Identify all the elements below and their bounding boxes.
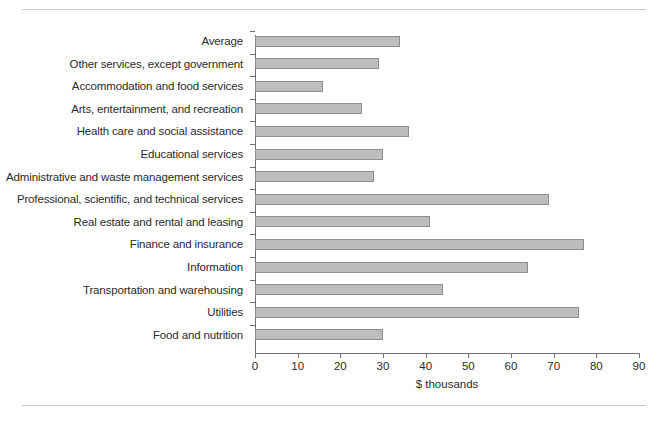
category-label: Administrative and waste management serv… xyxy=(0,166,250,189)
category-label: Educational services xyxy=(0,143,250,166)
y-axis-tick xyxy=(250,189,255,190)
bar-series xyxy=(255,30,647,353)
x-axis-line xyxy=(255,353,639,354)
x-axis-tick-label: 90 xyxy=(619,360,659,372)
top-divider-rule xyxy=(22,9,646,10)
category-label: Transportation and warehousing xyxy=(0,279,250,302)
y-axis-tick xyxy=(250,76,255,77)
x-axis-tick xyxy=(554,353,555,358)
bar xyxy=(255,149,383,160)
category-label: Professional, scientific, and technical … xyxy=(0,188,250,211)
bar-row xyxy=(255,75,639,98)
bar-row xyxy=(255,256,639,279)
y-axis-tick xyxy=(250,144,255,145)
bar-row xyxy=(255,53,639,76)
bar-row xyxy=(255,301,639,324)
x-axis-tick xyxy=(255,353,256,358)
x-axis-tick xyxy=(426,353,427,358)
y-axis-tick xyxy=(250,234,255,235)
x-axis-tick-label: 40 xyxy=(406,360,446,372)
x-axis-tick xyxy=(639,353,640,358)
y-axis-tick xyxy=(250,257,255,258)
bottom-divider-rule xyxy=(22,405,646,406)
bar xyxy=(255,262,528,273)
category-label: Information xyxy=(0,256,250,279)
y-axis-tick xyxy=(250,121,255,122)
plot-area: AverageOther services, except government… xyxy=(0,30,667,360)
category-label: Other services, except government xyxy=(0,53,250,76)
bar-row xyxy=(255,30,639,53)
x-axis-tick-label: 20 xyxy=(320,360,360,372)
category-label: Accommodation and food services xyxy=(0,75,250,98)
bar xyxy=(255,239,584,250)
x-axis-tick xyxy=(298,353,299,358)
category-label: Average xyxy=(0,30,250,53)
x-axis-tick-label: 80 xyxy=(576,360,616,372)
bar-row xyxy=(255,143,639,166)
x-axis-tick xyxy=(340,353,341,358)
bar xyxy=(255,36,400,47)
x-axis-tick-label: 50 xyxy=(448,360,488,372)
bar xyxy=(255,58,379,69)
x-axis-tick-label: 30 xyxy=(363,360,403,372)
bar xyxy=(255,284,443,295)
y-axis-tick xyxy=(250,302,255,303)
x-axis-tick xyxy=(468,353,469,358)
bar-row xyxy=(255,279,639,302)
category-label: Finance and insurance xyxy=(0,233,250,256)
y-axis-tick xyxy=(250,99,255,100)
bar xyxy=(255,307,579,318)
bar xyxy=(255,329,383,340)
bar xyxy=(255,171,374,182)
chart-figure: AverageOther services, except government… xyxy=(0,0,667,421)
bar-row xyxy=(255,324,639,347)
bar xyxy=(255,216,430,227)
category-label: Arts, entertainment, and recreation xyxy=(0,98,250,121)
bar xyxy=(255,103,362,114)
bar xyxy=(255,194,549,205)
x-axis-tick xyxy=(383,353,384,358)
x-axis-title: $ thousands xyxy=(255,378,639,390)
x-axis-tick xyxy=(596,353,597,358)
category-label: Food and nutrition xyxy=(0,324,250,347)
x-axis-tick xyxy=(511,353,512,358)
bar-row xyxy=(255,233,639,256)
y-axis-tick xyxy=(250,54,255,55)
x-axis-tick-label: 70 xyxy=(534,360,574,372)
y-axis-tick xyxy=(250,31,255,32)
bar-row xyxy=(255,166,639,189)
bar-row xyxy=(255,120,639,143)
category-label: Utilities xyxy=(0,301,250,324)
bar xyxy=(255,126,409,137)
bar-row xyxy=(255,188,639,211)
bar xyxy=(255,81,323,92)
category-label: Real estate and rental and leasing xyxy=(0,211,250,234)
bar-row xyxy=(255,98,639,121)
y-axis-tick xyxy=(250,212,255,213)
x-axis-tick-label: 10 xyxy=(278,360,318,372)
x-axis-tick-label: 60 xyxy=(491,360,531,372)
category-label: Health care and social assistance xyxy=(0,120,250,143)
y-axis-tick xyxy=(250,325,255,326)
x-axis-tick-label: 0 xyxy=(235,360,275,372)
bar-row xyxy=(255,211,639,234)
y-axis-tick xyxy=(250,280,255,281)
y-axis-tick xyxy=(250,167,255,168)
